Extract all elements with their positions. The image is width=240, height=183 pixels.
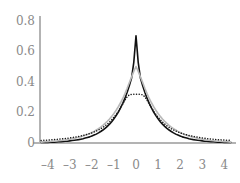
y-tick-label: 0.6 (16, 45, 35, 57)
plot-area (0, 0, 240, 183)
x-tick-label: 2 (176, 159, 184, 171)
y-tick-label: 0 (27, 137, 35, 149)
y-tick-label: 0.8 (16, 15, 35, 27)
x-tick-label: –4 (41, 159, 55, 171)
x-tick-label: 0 (132, 159, 140, 171)
series-dotted-black-curve (41, 94, 231, 140)
x-tick-label: 4 (220, 159, 228, 171)
y-tick-label: 0.4 (16, 76, 35, 88)
y-tick-label: 0.2 (16, 106, 35, 118)
series-layer (41, 36, 231, 143)
series-solid-black-curve (41, 36, 231, 143)
density-chart: 00.20.40.60.8 –4–3–2–101234 (0, 0, 240, 183)
x-tick-label: 3 (198, 159, 206, 171)
x-tick-label: –1 (107, 159, 121, 171)
x-tick-label: –2 (85, 159, 99, 171)
axes-group (33, 16, 236, 143)
x-tick-label: –3 (63, 159, 77, 171)
series-solid-gray-curve (41, 66, 231, 142)
x-tick-label: 1 (154, 159, 162, 171)
